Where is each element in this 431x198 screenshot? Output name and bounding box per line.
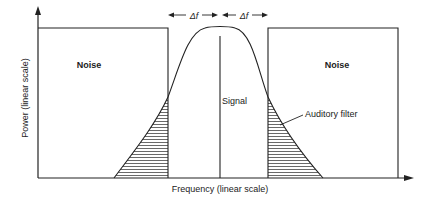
shaded-overlap-left [110, 95, 170, 179]
arrow-left-icon [168, 13, 174, 18]
arrow-right-icon [212, 13, 218, 18]
delta-f-left-label: Δf [189, 11, 200, 21]
noise-right-label: Noise [325, 60, 350, 70]
y-axis-label: Power (linear scale) [20, 58, 30, 138]
notched-noise-diagram: Δf Δf Noise Noise Signal Auditory filter… [0, 0, 431, 198]
arrow-right-icon [262, 13, 268, 18]
noise-left-label: Noise [77, 60, 102, 70]
delta-f-right-label: Δf [239, 11, 250, 21]
x-axis-label: Frequency (linear scale) [172, 184, 269, 194]
filter-pointer-line [280, 115, 303, 125]
auditory-filter-label: Auditory filter [305, 109, 358, 119]
y-axis-arrow-icon [35, 6, 41, 15]
arrow-left-icon [222, 13, 228, 18]
signal-label: Signal [222, 96, 247, 106]
y-axis [35, 6, 41, 178]
x-axis [38, 175, 414, 181]
x-axis-arrow-icon [404, 175, 414, 181]
shaded-overlap-right [266, 95, 326, 179]
